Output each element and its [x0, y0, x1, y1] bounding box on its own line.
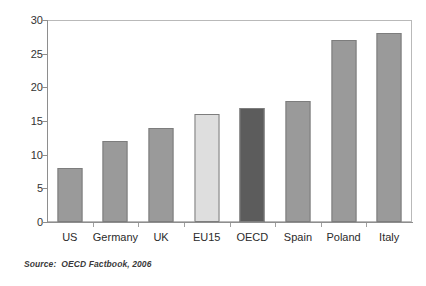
bar-slot [47, 20, 93, 222]
bar-oecd[interactable] [240, 108, 265, 222]
bar-us[interactable] [57, 168, 82, 222]
bar-slot [93, 20, 139, 222]
x-axis-tick-mark [321, 223, 322, 227]
bar-slot [366, 20, 412, 222]
source-note: Source: OECD Factbook, 2006 [24, 259, 152, 269]
y-axis-tick-label: 5 [7, 183, 43, 194]
bar-poland[interactable] [331, 40, 356, 222]
x-axis-tick-label-italy: Italy [379, 231, 399, 244]
bar-slot [275, 20, 321, 222]
y-axis-tick-label: 10 [7, 149, 43, 160]
bar-germany[interactable] [103, 141, 128, 222]
bar-slot [321, 20, 367, 222]
x-axis-tick-mark [275, 223, 276, 227]
bar-spain[interactable] [285, 101, 310, 222]
x-axis-tick-label-us: US [62, 231, 77, 244]
bar-uk[interactable] [149, 128, 174, 222]
y-axis: 051015202530 [0, 0, 43, 286]
x-axis-tick-mark [138, 223, 139, 227]
bar-chart-figure: 051015202530 USGermanyUKEU15OECDSpainPol… [0, 0, 426, 286]
x-axis-tick-label-germany: Germany [93, 231, 138, 244]
bar-slot [230, 20, 276, 222]
x-axis-tick-mark [366, 223, 367, 227]
x-axis-tick-label-eu15: EU15 [193, 231, 221, 244]
y-axis-tick-label: 30 [7, 15, 43, 26]
bar-eu15[interactable] [194, 114, 219, 222]
bar-slot [184, 20, 230, 222]
bar-italy[interactable] [377, 33, 402, 222]
x-axis-tick-mark [230, 223, 231, 227]
y-axis-tick-label: 15 [7, 116, 43, 127]
x-axis-tick-label-spain: Spain [284, 231, 312, 244]
y-axis-tick-label: 0 [7, 217, 43, 228]
bar-slot [138, 20, 184, 222]
x-axis-tick-label-poland: Poland [326, 231, 360, 244]
x-axis-tick-mark [184, 223, 185, 227]
x-axis-tick-mark [93, 223, 94, 227]
x-axis-tick-label-uk: UK [153, 231, 168, 244]
y-axis-tick-label: 20 [7, 82, 43, 93]
bar-series [47, 20, 412, 222]
y-axis-tick-label: 25 [7, 48, 43, 59]
x-axis-tick-label-oecd: OECD [236, 231, 268, 244]
